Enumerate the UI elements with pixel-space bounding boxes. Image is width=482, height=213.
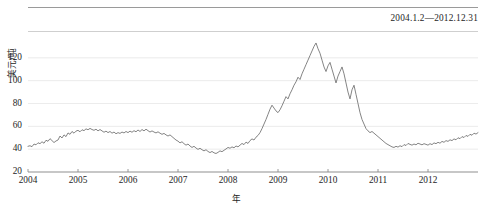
chart-canvas [0, 0, 482, 213]
chart-figure: 2004.1.2—2012.12.31 美元/吨 年 2040608010012… [0, 0, 482, 213]
data-line-price [28, 43, 478, 154]
